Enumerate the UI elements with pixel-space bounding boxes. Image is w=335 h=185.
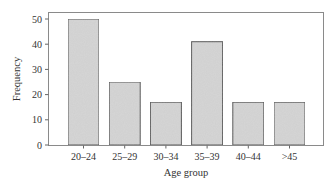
x-tick-label: 35–39 — [195, 151, 220, 162]
bar-4 — [192, 42, 223, 145]
bar-5 — [233, 102, 264, 145]
x-tick-label: >45 — [282, 151, 298, 162]
y-axis-ticks: 01020304050 — [32, 14, 49, 151]
y-tick-label: 0 — [37, 140, 42, 151]
bar-6 — [274, 102, 305, 145]
bar-chart: 01020304050 20–2425–2930–3435–3940–44>45… — [0, 0, 335, 185]
x-tick-label: 30–34 — [153, 151, 178, 162]
bar-2 — [109, 82, 140, 145]
x-tick-label: 20–24 — [71, 151, 96, 162]
y-tick-label: 10 — [32, 114, 42, 125]
x-tick-label: 25–29 — [112, 151, 137, 162]
y-tick-label: 30 — [32, 64, 42, 75]
x-axis-title: Age group — [164, 167, 209, 178]
bar-3 — [150, 102, 181, 145]
bar-1 — [68, 19, 99, 145]
x-tick-label: 40–44 — [236, 151, 261, 162]
y-tick-label: 50 — [32, 14, 42, 25]
x-axis-ticks: 20–2425–2930–3435–3940–44>45 — [71, 146, 297, 163]
y-tick-label: 40 — [32, 39, 42, 50]
y-tick-label: 20 — [32, 89, 42, 100]
y-axis-title: Frequency — [11, 56, 22, 101]
bars — [68, 19, 305, 145]
